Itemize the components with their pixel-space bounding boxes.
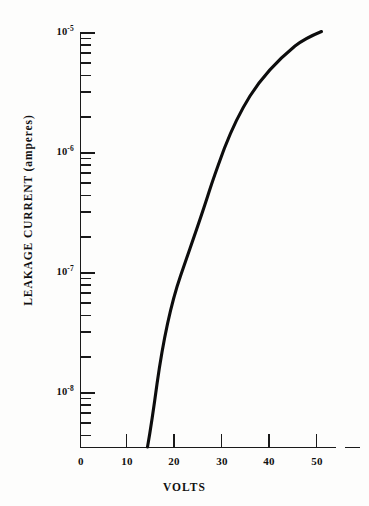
plot-area: [0, 0, 369, 506]
y-tick-label-1e-5: 10-5: [40, 26, 74, 37]
y-tick-label-1e-6: 10-6: [40, 146, 74, 157]
x-axis-title: VOLTS: [0, 481, 369, 493]
leakage-current-chart: 10-5 10-6 10-7 10-8 0 10 20 30 40 50 LEA…: [0, 0, 369, 506]
leakage-current-curve: [148, 32, 322, 448]
x-tick-label-20: 20: [162, 455, 186, 467]
x-ticks: [127, 434, 317, 448]
y-tick-label-1e-7: 10-7: [40, 266, 74, 277]
x-tick-label-10: 10: [115, 455, 139, 467]
x-tick-label-30: 30: [210, 455, 234, 467]
x-tick-label-40: 40: [257, 455, 281, 467]
y-tick-label-1e-8: 10-8: [40, 386, 74, 397]
y-major-ticks: [81, 33, 96, 393]
x-tick-label-0: 0: [70, 455, 92, 467]
y-axis-title: LEAKAGE CURRENT (amperes): [22, 60, 44, 360]
y-minor-ticks: [81, 39, 92, 436]
x-tick-label-50: 50: [305, 455, 329, 467]
